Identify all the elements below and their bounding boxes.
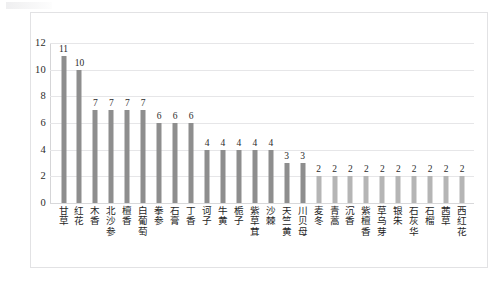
y-tick-label: 4 — [22, 145, 46, 155]
bar-slot: 3 — [295, 43, 311, 203]
bar-slot: 3 — [279, 43, 295, 203]
x-category-label: 草乌芽 — [376, 206, 388, 237]
bar-slot: 2 — [327, 43, 343, 203]
gridline-0 — [50, 203, 474, 204]
bar — [93, 110, 98, 203]
bar-value-label: 2 — [428, 165, 433, 174]
x-category-label: 川贝母 — [297, 206, 309, 237]
bar-slot: 2 — [342, 43, 358, 203]
x-category-label: 茜草 — [440, 206, 452, 227]
bar-value-label: 2 — [364, 165, 369, 174]
bar-slot: 2 — [358, 43, 374, 203]
bar-value-label: 6 — [189, 112, 194, 121]
bar-value-label: 6 — [173, 112, 178, 121]
plot-area: 1110777766644444332222222222 — [50, 43, 474, 203]
bar-value-label: 2 — [380, 165, 385, 174]
bar-value-label: 2 — [460, 165, 465, 174]
bar-slot: 4 — [247, 43, 263, 203]
bar-value-label: 7 — [125, 99, 130, 108]
bar-slot: 4 — [199, 43, 215, 203]
y-tick-label: 10 — [22, 65, 46, 75]
x-category-label: 紫草茸 — [249, 206, 261, 237]
bar-slot: 2 — [311, 43, 327, 203]
bar — [396, 176, 401, 203]
bar — [220, 150, 225, 203]
y-tick-label: 8 — [22, 91, 46, 101]
bar-series: 1110777766644444332222222222 — [50, 43, 474, 203]
bar-value-label: 4 — [252, 139, 257, 148]
bar — [109, 110, 114, 203]
bar-value-label: 6 — [157, 112, 162, 121]
x-axis-category-labels: 甘草红花木香北沙参檀香白葡萄拳参石膏丁香诃子牛黄栀子紫草茸沙棘天竺黄川贝母麦冬青… — [50, 206, 474, 284]
x-category-label: 沙棘 — [265, 206, 277, 227]
bar-slot: 6 — [151, 43, 167, 203]
bar — [205, 150, 210, 203]
bar — [316, 176, 321, 203]
x-category-label: 诃子 — [201, 206, 213, 227]
bar-value-label: 2 — [412, 165, 417, 174]
bar-slot: 2 — [438, 43, 454, 203]
bar-value-label: 4 — [221, 139, 226, 148]
bar-value-label: 7 — [109, 99, 114, 108]
x-category-label: 檀香 — [121, 206, 133, 227]
bar — [300, 163, 305, 203]
bar — [141, 110, 146, 203]
y-tick-label: 12 — [22, 38, 46, 48]
bar-value-label: 4 — [237, 139, 242, 148]
bar-value-label: 2 — [348, 165, 353, 174]
bar — [444, 176, 449, 203]
x-category-label: 青蒿 — [329, 206, 341, 227]
bar-slot: 2 — [454, 43, 470, 203]
x-category-label: 白葡萄 — [137, 206, 149, 237]
bar-slot: 7 — [135, 43, 151, 203]
bar-slot: 2 — [422, 43, 438, 203]
bar — [61, 56, 66, 203]
bar — [189, 123, 194, 203]
bar — [125, 110, 130, 203]
bar-slot: 2 — [390, 43, 406, 203]
x-category-label: 银朱 — [392, 206, 404, 227]
x-category-label: 石膏 — [169, 206, 181, 227]
bar-slot: 11 — [56, 43, 72, 203]
x-category-label: 甘草 — [58, 206, 70, 227]
bar-slot: 7 — [119, 43, 135, 203]
bar-value-label: 2 — [332, 165, 337, 174]
bar-value-label: 2 — [396, 165, 401, 174]
bar-value-label: 3 — [300, 152, 305, 161]
bar — [428, 176, 433, 203]
bar-slot: 4 — [263, 43, 279, 203]
x-category-label: 天竺黄 — [281, 206, 293, 237]
bar-slot: 4 — [215, 43, 231, 203]
x-category-label: 红花 — [73, 206, 85, 227]
bar-value-label: 2 — [316, 165, 321, 174]
x-category-label: 栀子 — [233, 206, 245, 227]
x-category-label: 北沙参 — [105, 206, 117, 237]
x-category-label: 石榴 — [424, 206, 436, 227]
bar — [173, 123, 178, 203]
bar-slot: 4 — [231, 43, 247, 203]
y-tick-label: 6 — [22, 118, 46, 128]
bar-slot: 2 — [406, 43, 422, 203]
x-category-label: 石灰华 — [408, 206, 420, 237]
bar — [460, 176, 465, 203]
bar-slot: 2 — [374, 43, 390, 203]
bar-value-label: 2 — [444, 165, 449, 174]
bar-chart-figure: 121086420 1110777766644444332222222222 甘… — [0, 0, 500, 289]
bar — [252, 150, 257, 203]
bar-slot: 7 — [87, 43, 103, 203]
x-category-label: 沉香 — [344, 206, 356, 227]
x-category-label: 麦冬 — [313, 206, 325, 227]
y-tick-label: 2 — [22, 171, 46, 181]
y-tick-label: 0 — [22, 198, 46, 208]
bar — [284, 163, 289, 203]
x-category-label: 紫檀香 — [360, 206, 372, 237]
bar-value-label: 7 — [93, 99, 98, 108]
bar — [77, 70, 82, 203]
bar — [364, 176, 369, 203]
bar — [268, 150, 273, 203]
bar-value-label: 4 — [205, 139, 210, 148]
bar — [348, 176, 353, 203]
x-category-label: 木香 — [89, 206, 101, 227]
bar-slot: 10 — [72, 43, 88, 203]
bar-value-label: 10 — [75, 59, 85, 68]
